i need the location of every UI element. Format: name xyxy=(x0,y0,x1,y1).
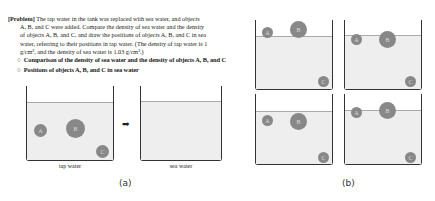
tap-water-label: tap water xyxy=(26,163,114,169)
problem-tag: [Problem] xyxy=(8,15,35,22)
option-tank-1: A B C xyxy=(255,20,333,90)
object-b: B xyxy=(379,31,396,48)
problem-line: A, B, and C were added. Compare the dens… xyxy=(8,23,218,31)
object-a: A xyxy=(262,115,273,126)
object-b: B xyxy=(379,102,396,119)
object-c: C xyxy=(96,145,109,158)
option-tank-2: A B C xyxy=(344,20,422,90)
sea-water-tank xyxy=(140,86,222,161)
problem-line: The tap water in the tank was replaced w… xyxy=(35,15,200,22)
problem-line: water, referring to their positions in t… xyxy=(8,40,218,48)
caption-b: (b) xyxy=(342,178,355,188)
bullet-positions: ○Positions of objects A, B, and C in sea… xyxy=(17,66,139,73)
option-tank-4: A B C xyxy=(344,94,422,165)
object-c: C xyxy=(318,152,329,163)
caption-a: (a) xyxy=(119,178,132,188)
object-a: A xyxy=(262,27,273,38)
tap-water-tank: A B C xyxy=(26,86,114,161)
object-b: B xyxy=(290,113,307,130)
sea-water-label: sea water xyxy=(140,163,222,169)
problem-line: of objects A, B, and C, and draw the pos… xyxy=(8,31,218,39)
bullet-density-comparison: ○Comparison of the density of sea water … xyxy=(17,56,226,63)
object-c: C xyxy=(405,76,416,87)
object-c: C xyxy=(405,152,416,163)
object-a: A xyxy=(34,124,47,137)
circle-bullet-icon: ○ xyxy=(17,66,21,73)
object-b: B xyxy=(66,119,85,138)
object-c: C xyxy=(318,76,329,87)
object-a: A xyxy=(351,34,362,45)
option-tank-3: A B C xyxy=(255,94,333,165)
bullet-text: Comparison of the density of sea water a… xyxy=(24,56,226,63)
object-b: B xyxy=(290,21,307,38)
right-arrow-icon: ➡ xyxy=(122,119,130,129)
bullet-text: Positions of objects A, B, and C in sea … xyxy=(24,66,139,73)
problem-line: g/cm³, and the density of sea water is 1… xyxy=(8,48,218,56)
sea-water xyxy=(141,101,221,160)
circle-bullet-icon: ○ xyxy=(17,56,21,63)
problem-text: [Problem] The tap water in the tank was … xyxy=(8,15,218,56)
object-a: A xyxy=(351,107,362,118)
